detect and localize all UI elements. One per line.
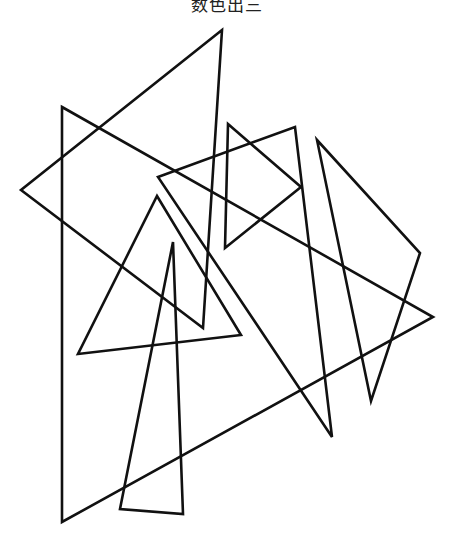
triangle-d (158, 127, 332, 437)
triangle-a (21, 30, 222, 328)
triangles-figure (0, 0, 453, 543)
triangle-e (317, 140, 420, 401)
triangle-f (78, 196, 241, 354)
triangle-b (62, 107, 433, 522)
triangle-c (225, 124, 301, 248)
